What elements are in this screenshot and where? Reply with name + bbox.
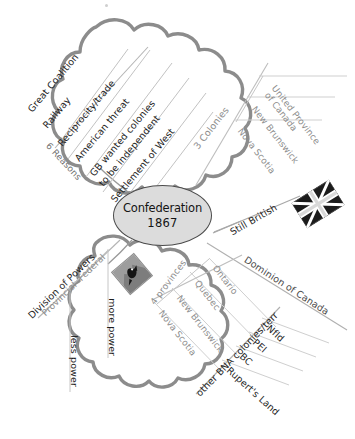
center-node[interactable]: Confederation 1867 <box>113 185 212 246</box>
other-bna-rule-4 <box>222 360 289 385</box>
dominion-spine <box>207 243 347 330</box>
scan-speck <box>105 4 108 7</box>
mindmap-canvas: 6 Reasons Great Coalition Railway Recipr… <box>0 0 355 439</box>
other-bna-rule-1 <box>262 318 329 343</box>
reasons-cloud-shape <box>52 20 250 195</box>
powers-cloud-shape <box>69 236 228 387</box>
other-bna-rule-2 <box>249 332 316 357</box>
other-bna-rule-3 <box>236 346 303 371</box>
center-node-year: 1867 <box>147 216 177 230</box>
center-node-title: Confederation <box>123 201 202 215</box>
still-british-hook <box>214 221 241 232</box>
